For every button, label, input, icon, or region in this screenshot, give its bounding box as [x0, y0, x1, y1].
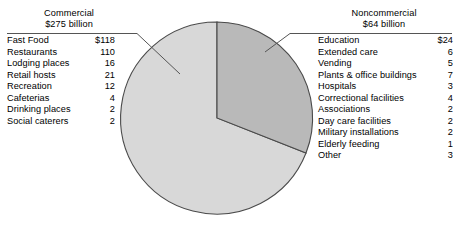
item-value: $118: [89, 35, 115, 47]
item-label: Cafeterias: [7, 93, 49, 105]
item-label: Plants & office buildings: [318, 70, 417, 82]
list-item: Drinking places 2: [7, 104, 115, 116]
item-value: 4: [104, 93, 115, 105]
list-item: Lodging places 16: [7, 58, 115, 70]
item-label: Hospitals: [318, 81, 356, 93]
item-value: 3: [442, 81, 453, 93]
item-value: 16: [99, 58, 115, 70]
item-value: 12: [99, 81, 115, 93]
item-value: 2: [442, 127, 453, 139]
noncommercial-panel-title: Noncommercial: [320, 8, 448, 19]
list-item: Day care facilities 2: [318, 116, 453, 128]
list-item: Hospitals 3: [318, 81, 453, 93]
list-item: Restaurants 110: [7, 47, 115, 59]
list-item: Military installations 2: [318, 127, 453, 139]
item-label: Day care facilities: [318, 116, 391, 128]
noncommercial-panel-header: Noncommercial $64 billion: [320, 8, 448, 31]
list-item: Vending 5: [318, 58, 453, 70]
item-label: Correctional facilities: [318, 93, 404, 105]
list-item: Elderly feeding 1: [318, 139, 453, 151]
item-value: 6: [442, 47, 453, 59]
item-label: Restaurants: [7, 47, 57, 59]
item-label: Extended care: [318, 47, 378, 59]
list-item: Education $24: [318, 35, 453, 47]
item-label: Elderly feeding: [318, 139, 380, 151]
list-item: Social caterers 2: [7, 116, 115, 128]
list-item: Extended care 6: [318, 47, 453, 59]
item-value: 3: [442, 150, 453, 162]
item-value: 110: [94, 47, 115, 59]
commercial-panel-header: Commercial $275 billion: [12, 8, 126, 31]
item-label: Recreation: [7, 81, 52, 93]
item-label: Education: [318, 35, 359, 47]
item-value: 4: [442, 93, 453, 105]
item-label: Retail hosts: [7, 70, 56, 82]
item-label: Drinking places: [7, 104, 71, 116]
noncommercial-panel-subtitle: $64 billion: [320, 19, 448, 30]
item-label: Social caterers: [7, 116, 69, 128]
list-item: Associations 2: [318, 104, 453, 116]
list-item: Recreation 12: [7, 81, 115, 93]
item-label: Fast Food: [7, 35, 49, 47]
commercial-item-list: Fast Food $118 Restaurants 110 Lodging p…: [7, 35, 115, 127]
item-value: 5: [442, 58, 453, 70]
item-value: 1: [442, 139, 453, 151]
list-item: Fast Food $118: [7, 35, 115, 47]
item-value: 2: [104, 116, 115, 128]
item-label: Associations: [318, 104, 370, 116]
list-item: Other 3: [318, 150, 453, 162]
item-label: Other: [318, 150, 341, 162]
item-label: Military installations: [318, 127, 399, 139]
item-label: Vending: [318, 58, 352, 70]
list-item: Retail hosts 21: [7, 70, 115, 82]
item-value: 7: [442, 70, 453, 82]
list-item: Correctional facilities 4: [318, 93, 453, 105]
list-item: Cafeterias 4: [7, 93, 115, 105]
item-value: 2: [104, 104, 115, 116]
item-value: 2: [442, 104, 453, 116]
list-item: Plants & office buildings 7: [318, 70, 453, 82]
noncommercial-item-list: Education $24 Extended care 6 Vending 5 …: [318, 35, 453, 162]
item-value: 21: [99, 70, 115, 82]
item-value: $24: [432, 35, 453, 47]
item-value: 2: [442, 116, 453, 128]
commercial-panel-subtitle: $275 billion: [12, 19, 126, 30]
pie-chart-figure: Commercial $275 billion Fast Food $118 R…: [0, 0, 459, 227]
item-label: Lodging places: [7, 58, 70, 70]
commercial-panel-title: Commercial: [12, 8, 126, 19]
